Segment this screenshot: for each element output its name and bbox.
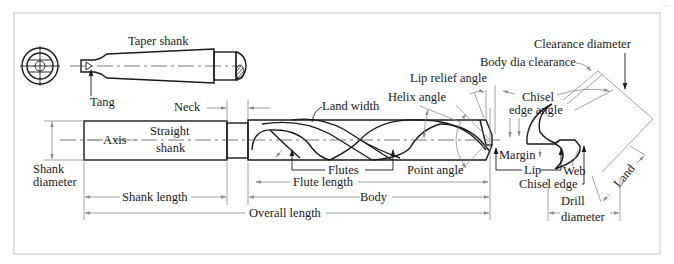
clearance-line-1	[563, 71, 598, 100]
land-label: Land	[611, 161, 639, 190]
helix-angle-arc	[424, 110, 428, 138]
shank-diameter-label-2: diameter	[33, 175, 78, 189]
clearance-box-edge	[598, 71, 653, 119]
chisel-angle-pointer	[503, 91, 515, 94]
taper-shank-label: Taper shank	[128, 34, 189, 48]
web-label: Web	[563, 164, 586, 178]
land-ext-low	[592, 176, 601, 202]
drill-nomenclature-figure: Taper shank Tang Straight shank Axis Nec…	[0, 0, 674, 264]
body-label: Body	[360, 190, 388, 204]
chisel-edge-label: Chisel edge	[519, 177, 578, 191]
shank-length-label: Shank length	[122, 190, 188, 204]
helix-angle-label: Helix angle	[388, 90, 446, 104]
chisel-angle-sweep	[557, 89, 609, 95]
point-angle-label: Point angle	[407, 163, 464, 177]
lip-relief-line	[474, 92, 484, 118]
margin-label: Margin	[499, 148, 536, 162]
body-dia-clearance-label: Body dia clearance	[480, 55, 576, 69]
chisel-edge-angle-label-1: Chisel	[522, 90, 554, 104]
axis-label: Axis	[103, 133, 127, 147]
straight-label: Straight	[150, 124, 190, 138]
land-ext-high	[630, 146, 645, 155]
land-arrow-low	[603, 194, 610, 201]
land-dim-group: Land	[611, 161, 639, 190]
neck-label: Neck	[174, 100, 201, 114]
land-width-label: Land width	[322, 99, 380, 113]
drill-diameter-label-1: Drill	[561, 194, 585, 208]
clearance-diameter-label: Clearance diameter	[534, 37, 632, 51]
shank-label: shank	[156, 141, 186, 155]
shank-diameter-label-1: Shank	[33, 162, 65, 176]
drill-diameter-label-2: diameter	[561, 210, 606, 224]
chisel-edge-angle-label-2: edge angle	[509, 103, 563, 117]
taper-shank-drawing	[70, 49, 246, 83]
tang-label: Tang	[90, 95, 116, 109]
lip-label: Lip	[524, 163, 541, 177]
land-width-dim	[276, 150, 282, 157]
land-arrow-high	[637, 156, 644, 163]
body-dia-clearance-leader	[576, 63, 591, 71]
lip-relief-angle-label: Lip relief angle	[410, 71, 487, 85]
flute-length-label: Flute length	[293, 175, 354, 189]
lip-relief-arc	[470, 91, 484, 94]
overall-length-label: Overall length	[249, 206, 322, 220]
flutes-label: Flutes	[328, 163, 359, 177]
end-view	[20, 46, 60, 86]
